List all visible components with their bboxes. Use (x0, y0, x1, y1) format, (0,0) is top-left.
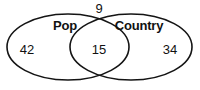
outside-count-label: 9 (95, 2, 102, 15)
region-count-intersection: 15 (92, 43, 106, 56)
set-label-pop: Pop (53, 19, 77, 32)
region-count-pop-only: 42 (20, 43, 34, 56)
region-count-country-only: 34 (163, 43, 177, 56)
set-label-country: Country (115, 19, 163, 32)
venn-diagram: 9 Pop Country 42 15 34 (0, 0, 200, 90)
